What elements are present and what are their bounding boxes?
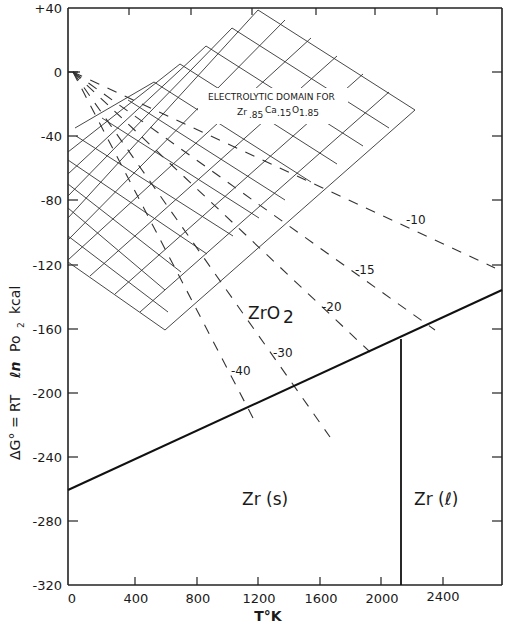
y-tick-label: -200 (32, 386, 62, 401)
y-axis-labels: +40 0 -40 -80 -120 -160 -200 -240 -280 -… (32, 1, 62, 593)
y-axis-ticks-right (492, 72, 502, 521)
y-axis-title-main: ΔG° = RT (7, 394, 23, 460)
domain-label-ca: Ca (265, 105, 277, 115)
x-tick-label: 2400 (426, 589, 459, 604)
y-tick-label: -240 (32, 450, 62, 465)
isobar-minus-30 (73, 72, 330, 437)
y-tick-label: -160 (32, 322, 62, 337)
zro2-label: ZrO (248, 303, 280, 323)
isobar-label-40: -40 (231, 364, 251, 378)
y-tick-label: -80 (41, 193, 62, 208)
y-axis-title-ln: ℓn (7, 361, 23, 379)
domain-label-o-sub: 1.85 (299, 108, 319, 118)
x-tick-label: 1200 (242, 591, 275, 606)
y-tick-label: -120 (32, 258, 62, 273)
x-tick-label: 800 (186, 591, 211, 606)
isobar-label-30: -30 (273, 346, 293, 360)
po2-isobars (73, 72, 495, 437)
domain-label-zr: Zr (237, 107, 247, 117)
chart: +40 0 -40 -80 -120 -160 -200 -240 -280 -… (0, 0, 510, 629)
domain-label-zr-sub: .85 (249, 110, 263, 120)
y-axis-ticks (68, 72, 78, 521)
x-tick-label: 1600 (304, 591, 337, 606)
isobar-label-20: -20 (322, 300, 342, 314)
domain-label-ca-sub: .15 (277, 108, 291, 118)
x-tick-label: 400 (124, 591, 149, 606)
y-axis-title-unit: kcal (7, 286, 23, 314)
zr-liquid-label: Zr (ℓ) (414, 489, 458, 509)
y-tick-label: -280 (32, 514, 62, 529)
x-tick-label: 2000 (365, 591, 398, 606)
zr-solid-label: Zr (s) (242, 489, 288, 509)
zro2-region-label: ZrO 2 (248, 303, 294, 327)
y-tick-label: +40 (35, 1, 62, 16)
isobar-label-15: -15 (355, 263, 375, 277)
y-axis-title: ΔG° = RT ℓn Po 2 kcal (7, 286, 26, 460)
zro2-label-sub: 2 (283, 307, 294, 327)
isobar-labels: -10 -15 -20 -30 -40 (231, 213, 426, 378)
y-tick-label: -320 (32, 578, 62, 593)
domain-label-line1: ELECTROLYTIC DOMAIN FOR (208, 92, 335, 102)
y-axis-title-sub: 2 (16, 322, 26, 328)
y-tick-label: 0 (54, 65, 62, 80)
isobar-label-10: -10 (406, 213, 426, 227)
electrolytic-domain-grid (68, 10, 415, 330)
x-axis-labels: 0 400 800 1200 1600 2000 2400 (68, 589, 460, 606)
x-axis-title: T°K (254, 608, 283, 624)
x-axis-ticks (135, 577, 443, 585)
x-tick-label: 0 (68, 591, 76, 606)
x-axis-ticks-top (129, 8, 437, 15)
y-axis-title-po: Po (7, 335, 23, 352)
y-tick-label: -40 (41, 129, 62, 144)
